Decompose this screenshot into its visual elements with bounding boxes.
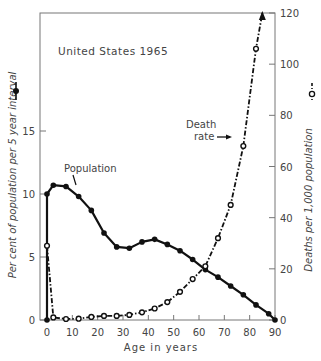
population-annotation-pointer — [73, 175, 76, 185]
x-tick-label: 90 — [269, 327, 282, 338]
death-rate-point — [89, 315, 94, 320]
y-right-tick-label: 20 — [280, 264, 293, 275]
x-tick-label: 30 — [117, 327, 130, 338]
death-annotation-arrowhead — [226, 135, 232, 140]
y-right-tick-label: 60 — [280, 162, 293, 173]
death-rate-point — [76, 316, 81, 321]
death-rate-point — [64, 317, 69, 322]
y-right-tick-label: 40 — [280, 213, 293, 224]
death-rate-point — [228, 202, 233, 207]
population-point — [63, 184, 69, 190]
y-right-tick-label: 120 — [280, 8, 299, 19]
y-right-tick-label: 80 — [280, 110, 293, 121]
death-rate-point — [140, 310, 145, 315]
x-tick-label: 60 — [193, 327, 206, 338]
population-point — [152, 237, 158, 243]
population-point — [44, 191, 50, 197]
x-tick-label: 0 — [44, 327, 50, 338]
death-rate-point — [51, 315, 56, 320]
population-point — [44, 317, 50, 323]
population-point — [114, 244, 120, 250]
chart-title: United States 1965 — [58, 45, 168, 57]
death-annotation-line1: Death — [186, 119, 216, 130]
death-rate-point — [190, 277, 195, 282]
death-rate-point — [203, 264, 208, 269]
y-axis-left-label: Per cent of population per 5 year interv… — [7, 71, 18, 278]
y-left-tick-label: 0 — [29, 315, 35, 326]
y-left-tick-label: 15 — [22, 126, 35, 137]
population-point — [253, 302, 259, 308]
death-rate-point — [45, 243, 50, 248]
death-rate-point — [152, 306, 157, 311]
y-left-tick-label: 5 — [29, 252, 35, 263]
population-point — [76, 194, 82, 200]
y-right-tick-label: 100 — [280, 59, 299, 70]
death-rate-point — [254, 46, 259, 51]
x-tick-label: 70 — [218, 327, 231, 338]
population-line — [47, 185, 275, 320]
death-rate-point — [127, 312, 132, 317]
death-rate-point — [216, 236, 221, 241]
x-axis-label: Age in years — [124, 342, 198, 353]
death-rate-point — [178, 289, 183, 294]
death-rate-point — [102, 314, 107, 319]
population-point — [89, 208, 95, 214]
x-tick-label: 80 — [243, 327, 256, 338]
population-point — [190, 257, 196, 263]
x-tick-label: 50 — [167, 327, 180, 338]
population-point — [215, 274, 221, 280]
death-rate-point — [165, 300, 170, 305]
x-tick-label: 10 — [66, 327, 79, 338]
x-tick-label: 40 — [142, 327, 155, 338]
y-left-tick-label: 10 — [22, 189, 35, 200]
death-rate-point — [114, 314, 119, 319]
population-point — [241, 292, 247, 298]
population-point — [228, 283, 234, 289]
population-point — [127, 245, 133, 251]
population-point — [272, 317, 278, 323]
x-tick-label: 20 — [91, 327, 104, 338]
population-point — [177, 248, 183, 254]
population-point — [139, 239, 145, 245]
death-annotation-line2: rate — [194, 131, 214, 142]
death-rate-point — [241, 144, 246, 149]
population-point — [101, 230, 107, 236]
population-point — [51, 182, 57, 188]
y-axis-right-label: Deaths per 1,000 population — [303, 128, 314, 271]
population-annotation: Population — [64, 163, 117, 174]
population-point — [266, 311, 272, 317]
population-point — [165, 242, 171, 248]
chart-canvas: 0102030405060708090051015020406080100120… — [0, 0, 321, 361]
chart: 0102030405060708090051015020406080100120… — [0, 0, 321, 361]
y-right-tick-label: 0 — [280, 315, 286, 326]
death-rate-arrowhead — [259, 11, 266, 20]
right-legend-marker — [309, 83, 314, 100]
